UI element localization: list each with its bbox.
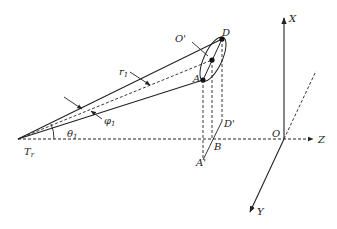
label-transmitter: Tr — [24, 146, 35, 159]
beam-rays — [18, 39, 222, 139]
o-prime-leader — [192, 42, 208, 56]
theta1-arc — [51, 124, 54, 139]
y-axis — [250, 139, 284, 212]
z-axis-label: Z — [317, 134, 326, 145]
label-A: A — [192, 73, 200, 84]
x-axis-label: X — [288, 13, 297, 24]
label-D-prime: D' — [223, 118, 235, 129]
label-B: B — [213, 141, 221, 152]
geometry-diagram: Z X Y O D O' A D' B A' Tr r1 — [0, 0, 337, 229]
label-r1: r1 — [119, 66, 128, 79]
label-A-prime: A' — [195, 157, 206, 168]
label-phi1: φ1 — [104, 115, 115, 128]
label-D: D — [221, 27, 230, 38]
beam-edge-arrow — [64, 97, 82, 109]
y-axis-label: Y — [257, 206, 265, 217]
origin-label: O — [272, 128, 280, 139]
label-O-prime: O' — [175, 33, 186, 44]
oblique-dashed-line — [284, 71, 316, 139]
